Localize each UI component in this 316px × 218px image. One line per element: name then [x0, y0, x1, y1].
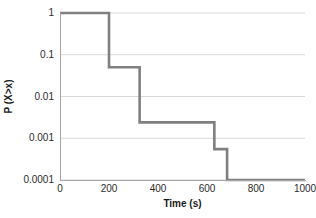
- y-axis-line: [60, 13, 61, 181]
- ccdf-step-chart: 10.10.010.0010.0001 02004006008001000 P …: [0, 0, 316, 218]
- gridlines: [60, 13, 305, 180]
- y-tick-label: 0.01: [35, 92, 54, 102]
- x-tick-label: 600: [199, 183, 216, 195]
- y-tick-label: 1: [48, 8, 54, 18]
- x-tick-label: 1000: [294, 183, 316, 195]
- x-axis-title: Time (s): [60, 198, 305, 210]
- x-axis-line: [60, 180, 306, 181]
- plot-area: [60, 13, 305, 180]
- x-tick-label: 800: [248, 183, 265, 195]
- y-axis-title-wrapper: P (X>x): [0, 0, 16, 193]
- y-tick-label: 0.001: [29, 133, 54, 143]
- y-tick-label: 0.1: [40, 50, 54, 60]
- x-tick-label: 0: [57, 183, 63, 195]
- x-tick-label: 400: [150, 183, 167, 195]
- y-axis-title: P (X>x): [3, 80, 14, 114]
- plot-svg: [60, 13, 305, 180]
- x-tick-label: 200: [101, 183, 118, 195]
- x-axis-tick-labels: 02004006008001000: [0, 183, 316, 199]
